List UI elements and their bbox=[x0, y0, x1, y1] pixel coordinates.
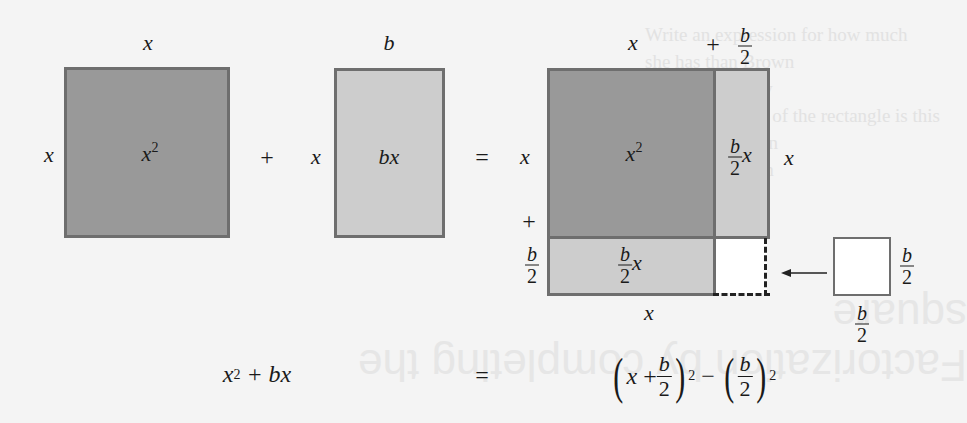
equation-lhs: x2 + bx bbox=[223, 361, 292, 388]
small-b-half-square bbox=[833, 237, 891, 296]
equation-equals: = bbox=[475, 363, 489, 387]
right-strip-label: b2x bbox=[728, 136, 752, 179]
small-square-side-label: b2 bbox=[900, 245, 914, 288]
corner-dashed-bottom bbox=[713, 293, 770, 296]
equation-rhs: (x + b2)2 − (b2)2 bbox=[610, 351, 776, 401]
top-plus: + bbox=[706, 32, 720, 56]
left-b-half: b2 bbox=[525, 244, 539, 287]
right-x-label: x bbox=[784, 147, 794, 169]
square-side-label: x bbox=[44, 144, 54, 166]
plus-sign: + bbox=[260, 145, 274, 169]
missing-corner bbox=[716, 239, 767, 293]
square-area-label: x2 bbox=[142, 141, 159, 165]
square-top-label: x bbox=[143, 32, 153, 54]
rect-side-label: x bbox=[311, 146, 321, 168]
left-plus: + bbox=[522, 209, 536, 233]
top-b-half: b2 bbox=[738, 25, 752, 68]
equals-sign-top: = bbox=[475, 145, 489, 169]
bottom-x-label: x bbox=[644, 302, 654, 324]
arrow-left-icon bbox=[781, 264, 827, 274]
corner-dashed-right bbox=[764, 238, 767, 296]
rect-top-label: b bbox=[384, 32, 395, 54]
left-x-label: x bbox=[520, 146, 530, 168]
small-square-bottom-label: b2 bbox=[855, 303, 869, 346]
bottom-strip-label: b2x bbox=[618, 244, 642, 287]
rect-area-label: bx bbox=[379, 146, 400, 168]
big-square-label: x2 bbox=[626, 141, 643, 165]
top-x-label: x bbox=[628, 32, 638, 54]
